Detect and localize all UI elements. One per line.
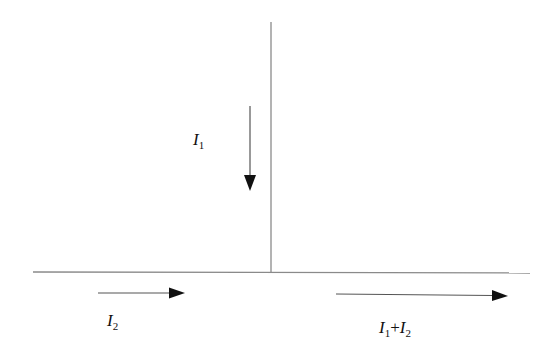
label-i1-plus-i2: I1+I2 bbox=[379, 318, 411, 339]
arrow-i2 bbox=[98, 288, 185, 299]
horizontal-wire bbox=[33, 272, 530, 273]
junction-diagram bbox=[0, 0, 559, 353]
label-i2: I2 bbox=[107, 311, 118, 332]
arrow-sum bbox=[336, 290, 508, 301]
arrow-i1 bbox=[244, 106, 256, 191]
label-i1: I1 bbox=[193, 130, 204, 151]
